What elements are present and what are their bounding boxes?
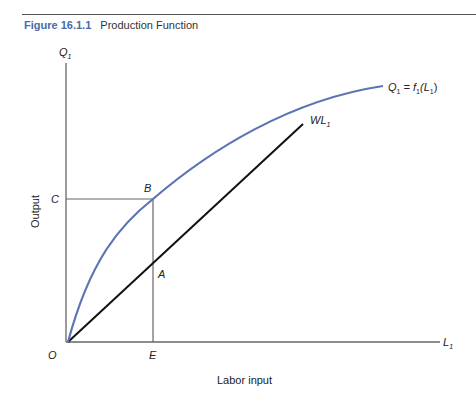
wage-line-label: WL1 (310, 114, 331, 128)
production-function-diagram: Q1 L1 Output Labor input O E C B A WL1 Q… (0, 0, 476, 396)
e-label: E (149, 349, 157, 361)
y-axis-label: Q1 (59, 46, 72, 60)
b-label: B (144, 182, 151, 194)
x-axis-label: L1 (443, 336, 453, 350)
a-label: A (157, 268, 165, 280)
wage-line (68, 124, 303, 342)
x-title: Labor input (217, 374, 272, 386)
production-curve-label: Q1 = f1(L1) (388, 81, 437, 95)
c-label: C (51, 193, 59, 205)
origin-label: O (48, 349, 57, 361)
production-curve (68, 86, 383, 342)
y-title: Output (29, 195, 41, 228)
